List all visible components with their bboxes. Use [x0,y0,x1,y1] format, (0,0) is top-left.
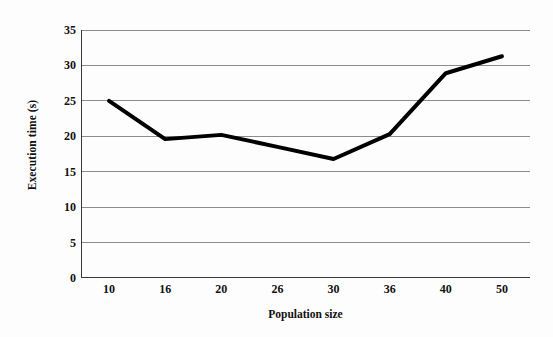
plot-area [81,30,530,278]
data-series [109,56,502,159]
y-axis-title: Execution time (s) [20,0,44,290]
x-tick-label: 36 [384,283,396,295]
x-axis-tick-labels: 1016202630364050 [81,283,530,303]
line-chart: Execution time (s) 05101520253035 101620… [0,0,553,337]
y-tick-label: 25 [44,95,76,107]
y-tick-label: 0 [44,272,76,284]
x-tick-label: 30 [328,283,340,295]
x-tick-label: 50 [496,283,508,295]
y-tick-label: 30 [44,59,76,71]
x-axis-title: Population size [81,308,530,320]
x-tick-label: 20 [215,283,227,295]
y-tick-label: 10 [44,201,76,213]
y-tick-label: 15 [44,166,76,178]
y-axis-title-label: Execution time (s) [26,100,38,191]
x-tick-label: 10 [103,283,115,295]
series-line [109,56,502,159]
y-tick-label: 5 [44,237,76,249]
plot-canvas [81,30,530,278]
y-tick-label: 35 [44,24,76,36]
y-tick-label: 20 [44,130,76,142]
x-tick-label: 40 [440,283,452,295]
x-tick-label: 16 [159,283,171,295]
y-axis-tick-labels: 05101520253035 [44,22,76,286]
x-tick-label: 26 [271,283,283,295]
